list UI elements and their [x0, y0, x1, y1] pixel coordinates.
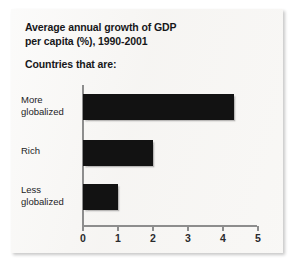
bar-less-globalized	[83, 184, 118, 210]
x-tick-label-4: 4	[213, 232, 233, 244]
x-tick-mark-5	[257, 226, 259, 231]
x-tick-mark-1	[117, 226, 119, 231]
x-tick-label-3: 3	[178, 232, 198, 244]
x-tick-mark-3	[187, 226, 189, 231]
x-tick-label-0: 0	[73, 232, 93, 244]
x-tick-label-5: 5	[248, 232, 268, 244]
x-tick-label-1: 1	[108, 232, 128, 244]
figure-card: Average annual growth of GDP per capita …	[11, 9, 283, 253]
bar-more-globalized	[83, 94, 234, 120]
x-tick-label-2: 2	[143, 232, 163, 244]
bar-label-more-globalized: More globalized	[21, 94, 79, 117]
x-axis-line	[82, 225, 257, 227]
x-tick-mark-4	[222, 226, 224, 231]
bar-label-less-globalized: Less globalized	[21, 184, 79, 207]
plot-area: More globalized Rich Less globalized 012…	[11, 9, 283, 253]
bar-rich	[83, 140, 153, 166]
x-tick-mark-2	[152, 226, 154, 231]
bar-label-rich: Rich	[21, 145, 79, 157]
x-tick-mark-0	[82, 226, 84, 231]
